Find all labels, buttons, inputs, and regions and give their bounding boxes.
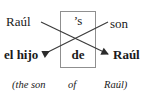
translation-alignment-diagram: Raúl ’s son el hijo de Raúl (the son of …: [0, 0, 149, 101]
gloss-part-c: Raúl): [104, 80, 127, 91]
target-word-right: Raúl: [113, 48, 140, 61]
gloss-part-a: (the son: [12, 80, 46, 91]
source-word-left: Raúl: [6, 15, 31, 28]
source-word-right: son: [110, 17, 128, 30]
target-word-left: el hijo: [4, 48, 38, 61]
gloss-part-b: of: [68, 80, 76, 91]
target-boxed-morpheme: de: [60, 48, 96, 61]
source-boxed-morpheme: ’s: [60, 14, 96, 27]
